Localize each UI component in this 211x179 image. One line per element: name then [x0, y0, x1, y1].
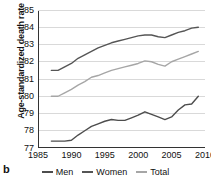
y-tick-label: 81 — [14, 75, 34, 84]
legend-label: Women — [96, 168, 127, 177]
figure-panel-b: Age-standardized death rate 777879808182… — [0, 0, 211, 179]
legend-swatch-icon — [136, 171, 147, 173]
legend-item-men: Men — [42, 168, 74, 177]
line-chart-svg — [38, 10, 205, 148]
x-axis-tick-labels: 198519901995200020052010 — [0, 151, 211, 163]
y-tick-label: 82 — [14, 57, 34, 66]
chart-legend: MenWomenTotal — [0, 165, 211, 179]
y-tick-label: 83 — [14, 40, 34, 49]
x-tick-label: 1990 — [54, 151, 88, 160]
x-tick-label: 2010 — [188, 151, 211, 160]
y-tick-label: 84 — [14, 23, 34, 32]
legend-item-women: Women — [82, 168, 127, 177]
legend-item-total: Total — [136, 168, 169, 177]
legend-swatch-icon — [82, 171, 93, 173]
legend-swatch-icon — [42, 171, 53, 173]
x-tick-label: 1995 — [88, 151, 122, 160]
y-tick-label: 85 — [14, 6, 34, 15]
series-line-women — [51, 27, 198, 70]
panel-label: b — [3, 163, 10, 175]
y-tick-label: 79 — [14, 109, 34, 118]
gridlines — [38, 10, 205, 131]
y-tick-label: 78 — [14, 126, 34, 135]
x-tick-label: 1985 — [21, 151, 55, 160]
plot-area — [38, 10, 205, 148]
series-line-men — [51, 96, 198, 141]
y-tick-label: 80 — [14, 92, 34, 101]
x-tick-label: 2000 — [121, 151, 155, 160]
legend-label: Men — [56, 168, 74, 177]
legend-label: Total — [150, 168, 169, 177]
x-tick-label: 2005 — [155, 151, 189, 160]
series-line-total — [51, 51, 198, 96]
